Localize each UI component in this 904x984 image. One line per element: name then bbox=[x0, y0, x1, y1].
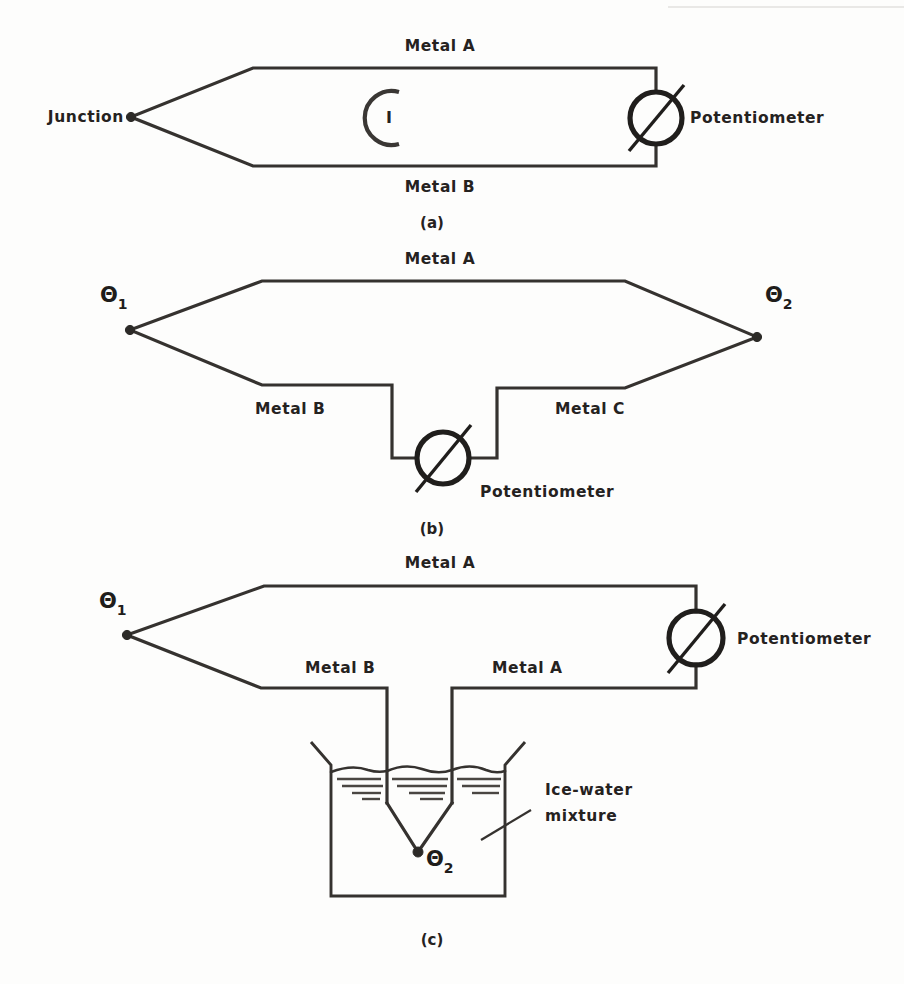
thermocouple-figure-svg: I Junction Metal A Metal B Potentiometer… bbox=[0, 0, 904, 984]
figure-a-potentiometer-slider bbox=[629, 85, 684, 151]
figure-c-theta2-label: Θ2 bbox=[426, 847, 454, 876]
figure-b-metal-c-label: Metal C bbox=[555, 400, 625, 418]
figure-a-metal-b-wire bbox=[131, 117, 656, 166]
figure-b-metal-c-wire bbox=[469, 337, 757, 458]
figure-c-theta1-dot bbox=[122, 630, 131, 639]
figure-b-theta1-label: Θ1 bbox=[100, 283, 128, 312]
figure-b-metal-a-wire bbox=[130, 281, 757, 337]
figure-b-theta2-label: Θ2 bbox=[765, 283, 793, 312]
figure-b-metal-a-label: Metal A bbox=[405, 250, 476, 268]
figure-a-junction-label: Junction bbox=[47, 108, 124, 126]
figure-page: I Junction Metal A Metal B Potentiometer… bbox=[0, 0, 904, 984]
figure-c-waterline-right bbox=[452, 767, 505, 773]
figure-b-theta2-dot bbox=[752, 332, 761, 341]
figure-c-metal-a-bottom-label: Metal A bbox=[492, 659, 563, 677]
figure-b-group: Θ1 Θ2 Metal A Metal B Metal C Potentiome… bbox=[100, 250, 793, 538]
figure-b-metal-b-wire bbox=[130, 330, 417, 458]
figure-c-icewater-label-line2: mixture bbox=[545, 807, 617, 825]
figure-c-potentiometer-label: Potentiometer bbox=[737, 630, 871, 648]
figure-a-metal-a-label: Metal A bbox=[405, 37, 476, 55]
figure-c-theta2-dot bbox=[413, 847, 423, 857]
figure-c-waterline-left bbox=[331, 767, 387, 772]
figure-c-metal-a-top-label: Metal A bbox=[405, 554, 476, 572]
figure-c-caption: (c) bbox=[421, 931, 444, 949]
figure-c-beaker-outline bbox=[311, 742, 525, 896]
figure-a-metal-b-label: Metal B bbox=[405, 178, 476, 196]
figure-c-icewater-label-line1: Ice-water bbox=[545, 781, 633, 799]
figure-c-theta1-label: Θ1 bbox=[99, 589, 127, 618]
figure-b-caption: (b) bbox=[420, 520, 444, 538]
figure-c-waterline-middle bbox=[387, 766, 452, 772]
figure-c-ice-hatch-marks bbox=[337, 779, 501, 799]
figure-a-group: I Junction Metal A Metal B Potentiometer… bbox=[47, 37, 825, 232]
figure-a-junction-dot bbox=[126, 112, 135, 121]
figure-a-current-label: I bbox=[386, 108, 392, 127]
figure-c-metal-b-label: Metal B bbox=[305, 659, 376, 677]
figure-b-potentiometer-label: Potentiometer bbox=[480, 483, 614, 501]
figure-a-potentiometer-label: Potentiometer bbox=[690, 109, 824, 127]
figure-c-group: Θ2 Θ1 Metal A Metal B Metal A Potentiome… bbox=[99, 554, 871, 949]
figure-a-current-arc-icon bbox=[365, 91, 399, 145]
figure-a-caption: (a) bbox=[420, 214, 444, 232]
figure-c-bath-junction-v bbox=[387, 803, 452, 852]
figure-c-metal-a-top-wire bbox=[127, 586, 696, 635]
footer-rule-decor bbox=[668, 6, 904, 8]
figure-b-metal-b-label: Metal B bbox=[255, 400, 326, 418]
figure-b-theta1-dot bbox=[125, 325, 134, 334]
